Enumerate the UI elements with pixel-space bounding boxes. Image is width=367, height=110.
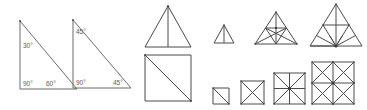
figure-triangle-with-median [145, 5, 191, 47]
figure-square-series-3 [273, 72, 306, 105]
vertex-dot-apex [335, 3, 337, 5]
vertex-dot-top-left [144, 54, 146, 56]
vertex-dot-centroid [275, 27, 277, 29]
figure-square-with-diagonal [144, 54, 192, 102]
vertex-dot-bottom-right [263, 103, 265, 105]
figure-square-series-4 [311, 61, 355, 105]
vertex-dot-bottom-left [311, 103, 313, 105]
vertex-dot-top-right [353, 61, 355, 63]
vertex-dot-bottom-left [273, 103, 275, 105]
vertex-dot-top-right [304, 72, 306, 74]
vertex-dot-top-left [240, 80, 242, 82]
angle-label-90-left: 90° [23, 80, 33, 87]
vertex-dot-center [288, 87, 291, 90]
vertex-dot-mid-left [322, 24, 324, 26]
vertex-dot-apex [72, 19, 74, 21]
vertex-dot-bottom-right [190, 100, 192, 102]
geometry-figure-canvas: 30° 90° 60° 45° 90° 45° [0, 0, 367, 110]
vertex-dot-top-left [212, 87, 214, 89]
angle-label-30: 30° [23, 42, 33, 49]
vertex-dot-center [331, 81, 334, 84]
vertex-dot-mid-left [311, 82, 313, 84]
angle-label-90-left: 90° [76, 79, 86, 86]
square-1-diagonal [213, 88, 229, 104]
vertex-dot-top-mid [332, 61, 334, 63]
figure-triangle-30-60-90: 30° 90° 60° [19, 20, 77, 89]
vertex-dot-apex [223, 24, 225, 26]
vertex-dot-top-right [263, 80, 265, 82]
figure-triangle-series-medium [254, 11, 298, 45]
figure-triangle-45-45-90: 45° 90° 45° [72, 19, 131, 88]
triangle-30-60-90-outline [20, 21, 77, 89]
vertex-dot-mid-right [348, 24, 350, 26]
vertex-dot-base-left [254, 43, 256, 45]
angle-label-45-top: 45° [76, 28, 86, 35]
figure-triangle-series-small [214, 24, 234, 43]
vertex-dot-bottom-right [228, 103, 230, 105]
vertex-dot-base-right [296, 43, 298, 45]
vertex-dot-mid-right [353, 82, 355, 84]
angle-label-45-right: 45° [113, 79, 123, 86]
vertex-dot-apex [167, 5, 169, 7]
vertex-dot-top-left [311, 61, 313, 63]
figure-triangle-series-large [310, 3, 362, 47]
vertex-dot-bottom-mid [332, 103, 334, 105]
vertex-dot-bottom-right [304, 103, 306, 105]
square-diagonal-line [145, 55, 191, 101]
vertex-dot-bottom-right [353, 103, 355, 105]
figure-square-series-2 [240, 80, 265, 105]
vertex-dot-top-left [273, 72, 275, 74]
angle-label-60: 60° [46, 80, 56, 87]
figure-square-series-1 [212, 87, 230, 105]
vertex-dot-apex [275, 11, 277, 13]
vertex-dot-base-mid [334, 44, 337, 47]
vertex-dot-bottom-left [240, 103, 242, 105]
vertex-dot-apex [19, 20, 21, 22]
